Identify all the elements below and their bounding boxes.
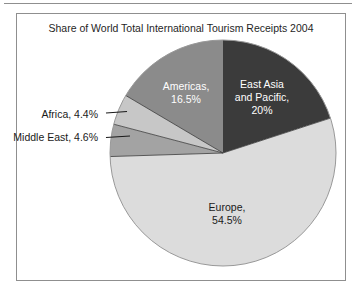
slice-label-line: 20% [235, 104, 289, 117]
figure-panel: Share of World Total International Touri… [0, 0, 356, 292]
pie-slices-group [110, 40, 336, 266]
slice-label-line: and Pacific, [235, 91, 289, 104]
slice-label-line: East Asia [235, 78, 289, 91]
slice-label-line: 54.5% [209, 214, 246, 227]
slice-label-line: Americas, [163, 80, 210, 93]
slice-label-africa: Africa, 4.4% [41, 108, 98, 121]
slice-label-europe: Europe, 54.5% [209, 201, 246, 227]
slice-label-line: Europe, [209, 201, 246, 214]
slice-label-middle-east: Middle East, 4.6% [13, 131, 98, 144]
pie-chart-svg [0, 0, 356, 292]
slice-label-americas: Americas, 16.5% [163, 80, 210, 106]
slice-label-east-asia-and-pacific: East Asia and Pacific, 20% [235, 78, 289, 117]
slice-label-line: 16.5% [163, 93, 210, 106]
